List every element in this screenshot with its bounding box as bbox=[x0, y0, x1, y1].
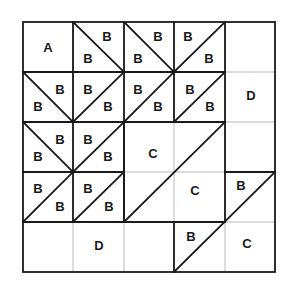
label-b: B bbox=[103, 149, 112, 164]
label-b: B bbox=[205, 99, 214, 114]
label-b: B bbox=[83, 181, 92, 196]
label-b: B bbox=[183, 29, 192, 44]
label-c: C bbox=[148, 146, 158, 161]
label-b: B bbox=[83, 82, 92, 97]
label-d: D bbox=[94, 238, 103, 253]
label-b: B bbox=[102, 29, 111, 44]
label-b: B bbox=[185, 82, 194, 97]
label-a: A bbox=[43, 40, 53, 55]
label-c: C bbox=[190, 183, 200, 198]
label-b: B bbox=[204, 51, 213, 66]
label-c: C bbox=[242, 236, 252, 251]
label-d: D bbox=[246, 88, 255, 103]
label-b: B bbox=[133, 51, 142, 66]
label-b: B bbox=[33, 99, 42, 114]
label-b: B bbox=[55, 199, 64, 214]
label-b: B bbox=[83, 132, 92, 147]
label-b: B bbox=[133, 82, 142, 97]
label-b: B bbox=[153, 29, 162, 44]
piece-labels: A B B B B B B B B B B B B B B D B B B B … bbox=[33, 29, 255, 253]
label-b: B bbox=[55, 132, 64, 147]
label-b: B bbox=[103, 99, 112, 114]
label-b: B bbox=[236, 178, 245, 193]
label-b: B bbox=[153, 99, 162, 114]
label-b: B bbox=[83, 51, 92, 66]
label-b: B bbox=[33, 181, 42, 196]
label-b: B bbox=[186, 229, 195, 244]
label-b: B bbox=[104, 199, 113, 214]
label-b: B bbox=[33, 149, 42, 164]
label-b: B bbox=[55, 82, 64, 97]
quilt-block-diagram: A B B B B B B B B B B B B B B D B B B B … bbox=[0, 0, 284, 290]
